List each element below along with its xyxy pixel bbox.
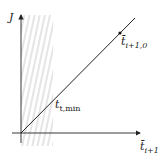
- y-axis-label: J: [7, 11, 14, 24]
- point-lower-label: tt,min: [55, 98, 80, 113]
- diagram-canvas: J t̄i+1,0 tt,min t̄i+1: [0, 0, 163, 159]
- hatched-region: [21, 15, 53, 146]
- point-upper-label: t̄i+1,0: [121, 35, 147, 50]
- x-axis-label: t̄i+1: [140, 140, 159, 155]
